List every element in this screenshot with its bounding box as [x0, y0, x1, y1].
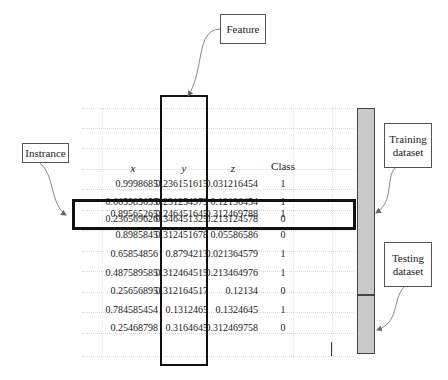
- training-arrow-icon: [376, 168, 395, 213]
- callout-arrows: [0, 0, 448, 380]
- instance-arrow-icon: [40, 163, 66, 215]
- feature-arrow-icon: [188, 29, 220, 96]
- testing-arrow-icon: [377, 287, 404, 330]
